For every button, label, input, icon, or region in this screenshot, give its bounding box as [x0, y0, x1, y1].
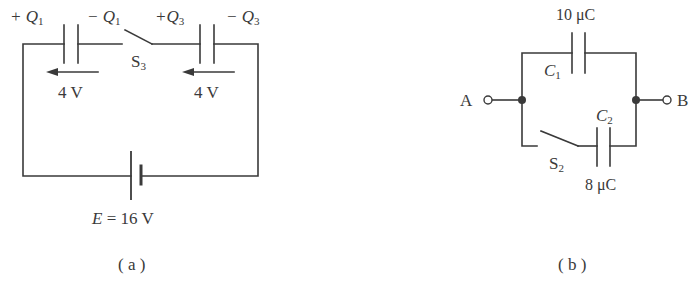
label-plus-q1: + Q1 — [10, 8, 44, 27]
label-text: − Q — [87, 7, 115, 26]
label-text: +Q — [155, 7, 179, 26]
label-text: E — [92, 209, 102, 228]
arrowhead-q1 — [46, 68, 58, 76]
label-text: = 16 V — [102, 209, 153, 228]
label-sub: 3 — [179, 15, 185, 27]
label-text: + Q — [10, 7, 38, 26]
label-c2-name: C2 — [596, 107, 613, 126]
label-c1-value: 10 μC — [556, 7, 595, 23]
capacitor-c1 — [572, 33, 585, 73]
battery-e — [131, 152, 141, 199]
label-terminal-b: B — [677, 92, 688, 109]
arrowhead-q3 — [182, 68, 194, 76]
label-sub: 1 — [115, 15, 121, 27]
label-minus-q3: − Q3 — [226, 8, 260, 27]
capacitor-q3 — [200, 25, 214, 63]
label-c2-value: 8 μC — [585, 177, 616, 193]
capacitor-c2 — [597, 128, 610, 166]
caption-a: ( a ) — [118, 256, 145, 273]
label-battery-emf: E = 16 V — [92, 210, 154, 227]
circuit-diagrams — [0, 0, 697, 293]
label-voltage-q3: 4 V — [194, 84, 219, 101]
label-minus-q1: − Q1 — [87, 8, 121, 27]
label-sub: 1 — [555, 69, 561, 81]
label-sub: 3 — [140, 60, 146, 72]
caption-b: ( b ) — [558, 256, 586, 273]
label-text: C — [596, 106, 607, 125]
label-terminal-a: A — [460, 92, 472, 109]
terminal-a-icon — [484, 96, 492, 104]
capacitor-q1 — [64, 25, 78, 63]
terminal-b-icon — [663, 96, 671, 104]
label-text: − Q — [226, 7, 254, 26]
label-switch-s2: S2 — [549, 155, 564, 174]
label-sub: 3 — [254, 15, 260, 27]
switch-s3 — [125, 30, 152, 44]
switch-s2 — [541, 131, 578, 146]
junction-node-right — [632, 96, 640, 104]
label-sub: 1 — [38, 15, 44, 27]
label-voltage-q1: 4 V — [58, 84, 83, 101]
label-sub: 2 — [607, 114, 613, 126]
junction-node-left — [518, 96, 526, 104]
label-plus-q3: +Q3 — [155, 8, 184, 27]
label-sub: 2 — [558, 162, 564, 174]
label-text: C — [544, 61, 555, 80]
label-c1-name: C1 — [544, 62, 561, 81]
label-switch-s3: S3 — [131, 53, 146, 72]
